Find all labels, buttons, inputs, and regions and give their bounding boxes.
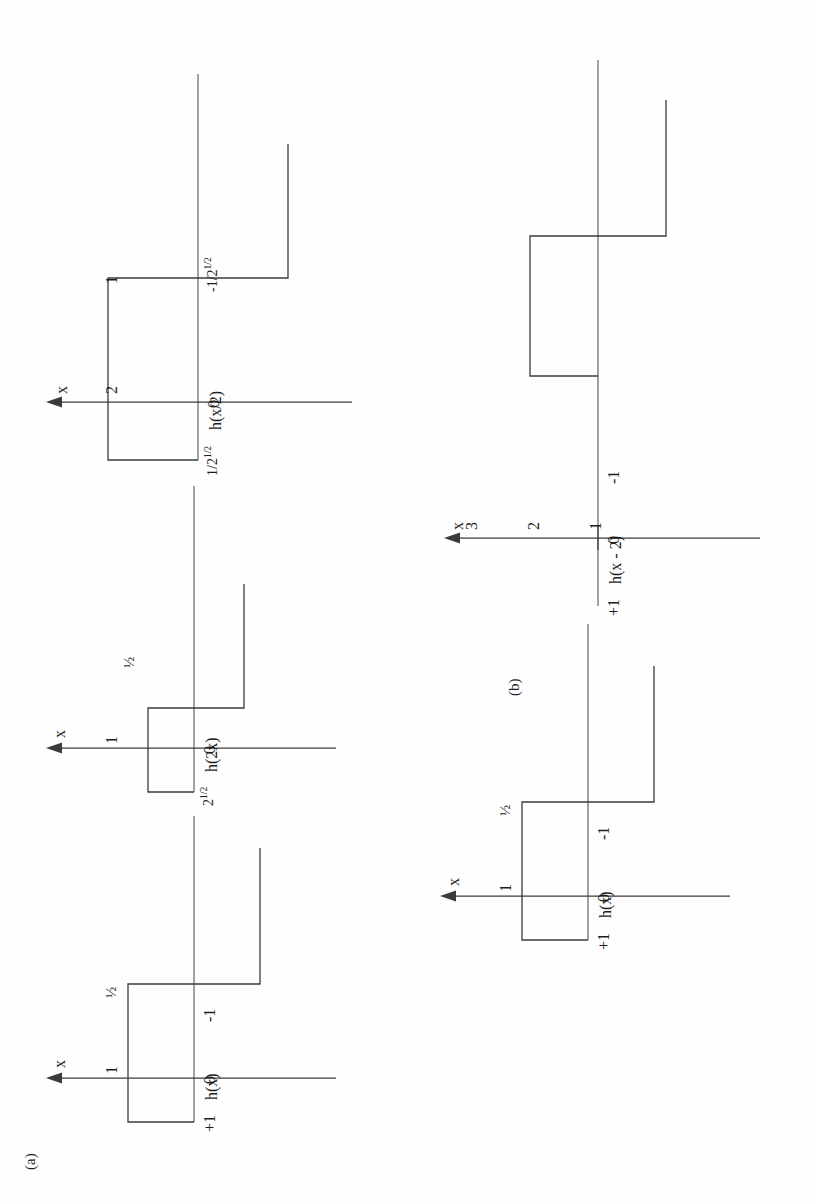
a1-label-plus-one: +1 <box>202 1115 218 1132</box>
plot-a2-svg <box>36 474 366 804</box>
a2-axis-arrowhead <box>46 743 62 754</box>
panel-b: (b) +1 h(x) 0 -1 ½ 1 x <box>420 0 814 1204</box>
b1-axis-arrowhead <box>440 891 456 902</box>
a1-tick-label-one: 1 <box>104 1066 120 1074</box>
panel-a: (a) +1 h(x) 0 -1 ½ 1 x <box>0 0 380 1204</box>
plot-h-of-x-a: +1 h(x) 0 -1 ½ 1 x <box>36 804 366 1134</box>
a3-amp-bot-base: -1/2 <box>205 269 220 292</box>
plot-h-of-x-b: +1 h(x) 0 -1 ½ 1 x <box>430 612 760 952</box>
a2-label-zero: 0 <box>202 746 218 754</box>
b1-label-zero: 0 <box>596 894 612 902</box>
a2-haar-step <box>148 584 244 792</box>
a3-tick-label-one: 1 <box>104 276 120 284</box>
b1-axis-label-x: x <box>446 878 462 886</box>
a2-label-amplitude: 21/2 <box>202 787 216 806</box>
a3-tick-label-two: 2 <box>104 386 120 394</box>
a3-axis-arrowhead <box>46 397 62 408</box>
figure-page: (a) +1 h(x) 0 -1 ½ 1 x <box>0 0 814 1204</box>
panel-a-tag: (a) <box>22 1153 39 1170</box>
a1-label-zero: 0 <box>202 1076 218 1084</box>
plot-h-of-x-minus-2: +1 h(x - 2) 0 -1 1 2 3 x <box>420 56 790 616</box>
b1-label-plus-one: +1 <box>596 933 612 950</box>
b2-tick-label-three: 3 <box>464 522 480 530</box>
a3-amp-top-base: 1/2 <box>205 458 220 476</box>
a3-label-function: h(x/2) <box>208 391 224 430</box>
a1-axis-label-x: x <box>52 1060 68 1068</box>
a2-label-function: h(2x) <box>204 737 220 772</box>
b2-label-plus-one: +1 <box>606 599 622 616</box>
rotated-figure-canvas: (a) +1 h(x) 0 -1 ½ 1 x <box>0 0 814 1204</box>
a3-amp-bot-exponent: 1/2 <box>203 257 213 269</box>
b2-label-minus-one: -1 <box>606 471 622 484</box>
a1-axis-arrowhead <box>46 1073 62 1084</box>
b2-tick-label-one: 1 <box>588 522 604 530</box>
b2-axis-arrowhead <box>444 533 460 544</box>
a3-label-amplitude-top: 1/21/2 <box>206 446 220 476</box>
a2-tick-label-half: ½ <box>122 657 137 668</box>
a3-label-zero: 0 <box>206 400 222 408</box>
b1-tick-label-half: ½ <box>498 805 513 816</box>
plot-h-of-x-over-2: 1/21/2 h(x/2) 0 -1/21/2 1 2 x <box>22 54 382 474</box>
b1-label-minus-one: -1 <box>596 827 612 840</box>
b2-axis-label-x: x <box>450 522 466 530</box>
a3-label-amplitude-bottom: -1/21/2 <box>206 257 220 292</box>
a2-amp-exponent: 1/2 <box>199 787 209 799</box>
plot-b2-svg <box>420 56 790 616</box>
plot-a1-svg <box>36 804 366 1134</box>
b2-tick-label-two: 2 <box>526 522 542 530</box>
a1-tick-label-half: ½ <box>104 987 119 998</box>
plot-h-of-2x: 21/2 h(2x) 0 ½ 1 x <box>36 474 366 804</box>
a3-axis-label-x: x <box>54 386 70 394</box>
a2-amp-base: 2 <box>201 799 216 806</box>
b1-tick-label-one: 1 <box>498 884 514 892</box>
b2-label-zero: 0 <box>606 536 622 544</box>
a3-amp-top-exponent: 1/2 <box>203 446 213 458</box>
a1-label-minus-one: -1 <box>202 1009 218 1022</box>
a2-tick-label-one: 1 <box>104 736 120 744</box>
plot-a3-svg <box>22 54 382 474</box>
a2-axis-label-x: x <box>52 730 68 738</box>
